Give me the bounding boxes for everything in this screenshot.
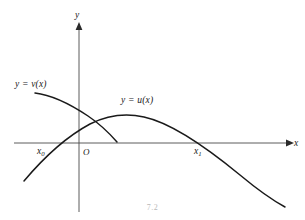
curve-label-v: y = v(x)	[15, 80, 47, 90]
x0-subscript: 0	[41, 150, 44, 157]
x0-label: x0	[37, 147, 45, 157]
curve-label-u: y = u(x)	[121, 96, 153, 106]
origin-label: O	[83, 148, 90, 157]
math-plot-svg	[0, 0, 305, 220]
figure-caption: 7.2	[0, 203, 305, 212]
x-axis-arrowhead	[286, 140, 294, 147]
curve-u	[24, 115, 285, 207]
x1-subscript: 1	[198, 150, 201, 157]
y-axis-arrowhead	[76, 22, 83, 30]
y-axis-label: y	[75, 11, 79, 21]
x1-label: x1	[194, 147, 202, 157]
figure-container: y = v(x) y = u(x) x0 x1 O x y 7.2	[0, 0, 305, 220]
x-axis-label: x	[294, 139, 298, 149]
